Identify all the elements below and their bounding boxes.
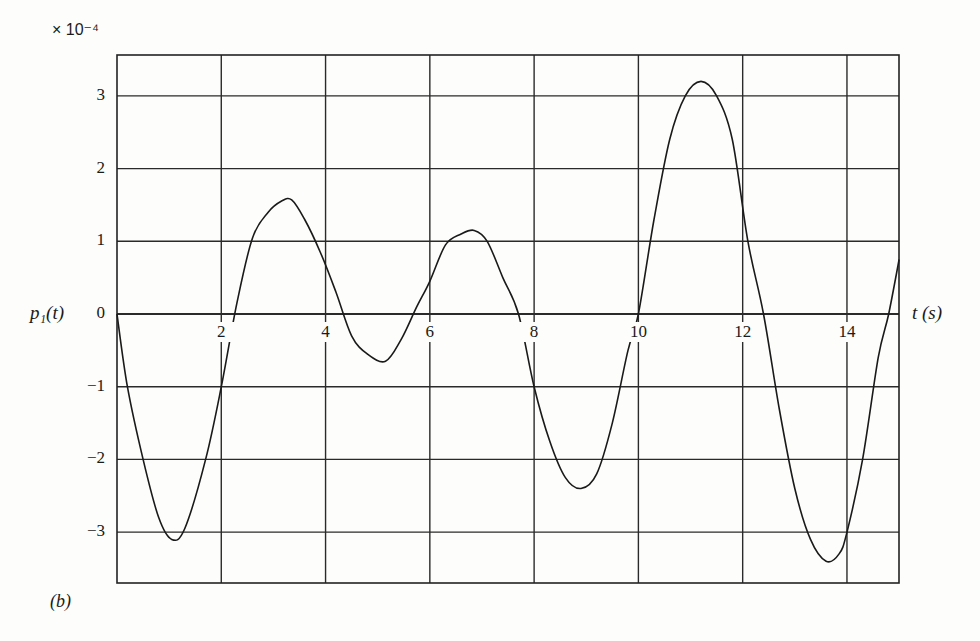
x-tick-label: 6	[415, 322, 445, 342]
y-tick-label: −2	[65, 448, 105, 468]
x-tick-label: 14	[832, 322, 862, 342]
x-tick-label: 10	[623, 322, 653, 342]
x-tick-label: 2	[206, 322, 236, 342]
y-tick-label: 0	[65, 303, 105, 323]
y-tick-label: 2	[65, 158, 105, 178]
panel-label: (b)	[50, 591, 71, 612]
x-axis-label-text: t (s)	[912, 302, 942, 323]
x-tick-label: 4	[311, 322, 341, 342]
line-chart	[0, 0, 980, 641]
y-tick-label: −1	[65, 376, 105, 396]
scale-label: × 10⁻⁴	[52, 20, 99, 39]
y-axis-label: p₁(t)	[30, 302, 64, 324]
y-tick-label: 3	[65, 85, 105, 105]
x-axis-label: t (s)	[912, 302, 942, 324]
x-tick-label: 12	[728, 322, 758, 342]
y-tick-label: 1	[65, 230, 105, 250]
y-tick-label: −3	[65, 521, 105, 541]
x-tick-label: 8	[519, 322, 549, 342]
